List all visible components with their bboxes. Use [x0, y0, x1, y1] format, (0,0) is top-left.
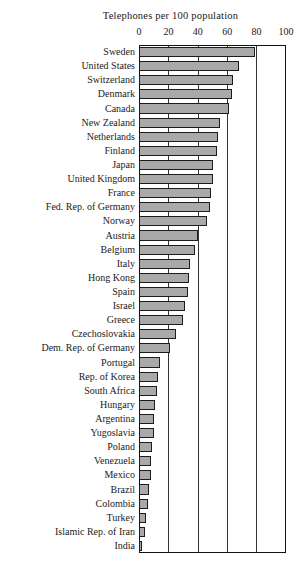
bar: [139, 329, 176, 339]
bar: [139, 343, 170, 353]
category-label: Hungary: [100, 400, 135, 410]
category-label: Japan: [112, 160, 135, 170]
category-label: Belgium: [101, 245, 135, 255]
bar: [139, 103, 229, 113]
bar: [139, 118, 220, 128]
telephones-bar-chart: Telephones per 100 population 0204060801…: [0, 0, 299, 576]
x-tick-label-60: 60: [222, 26, 232, 37]
category-labels: SwedenUnited StatesSwitzerlandDenmarkCan…: [0, 45, 135, 553]
bar: [139, 188, 211, 198]
bar: [139, 357, 160, 367]
category-label: Norway: [103, 216, 135, 226]
category-label: New Zealand: [81, 118, 135, 128]
x-tick-label-40: 40: [193, 26, 203, 37]
bar: [139, 202, 210, 212]
category-label: Italy: [117, 259, 135, 269]
category-label: Fed. Rep. of Germany: [46, 202, 135, 212]
x-tick-label-80: 80: [252, 26, 262, 37]
bar: [139, 470, 151, 480]
bar: [139, 484, 149, 494]
bars-layer: [139, 45, 286, 553]
category-label: France: [108, 188, 135, 198]
bar: [139, 442, 152, 452]
bar: [139, 527, 145, 537]
category-label: Mexico: [104, 470, 135, 480]
category-label: Czechoslovakia: [72, 329, 135, 339]
bar: [139, 61, 239, 71]
bar: [139, 315, 183, 325]
bar: [139, 414, 154, 424]
category-label: Finland: [104, 146, 135, 156]
category-label: Poland: [107, 442, 135, 452]
bar: [139, 513, 146, 523]
category-label: Israel: [113, 301, 135, 311]
bar: [139, 216, 207, 226]
bar: [139, 146, 217, 156]
category-label: Portugal: [101, 358, 135, 368]
category-label: Venezuela: [94, 456, 135, 466]
bar: [139, 386, 157, 396]
bar: [139, 259, 190, 269]
bar: [139, 132, 218, 142]
category-label: Hong Kong: [88, 273, 135, 283]
category-label: Dem. Rep. of Germany: [41, 343, 135, 353]
bar: [139, 428, 154, 438]
category-label: United Kingdom: [68, 174, 136, 184]
category-label: South Africa: [84, 386, 135, 396]
category-label: Austria: [106, 231, 135, 241]
bar: [139, 174, 213, 184]
category-label: Turkey: [106, 513, 135, 523]
bar: [139, 75, 233, 85]
bar: [139, 245, 195, 255]
category-label: Yugoslavia: [91, 428, 135, 438]
category-label: Islamic Rep. of Iran: [55, 527, 135, 537]
category-label: Greece: [107, 315, 135, 325]
category-label: Rep. of Korea: [79, 372, 135, 382]
category-label: Colombia: [96, 499, 135, 509]
bar: [139, 301, 185, 311]
category-label: Argentina: [95, 414, 135, 424]
category-label: Spain: [112, 287, 135, 297]
category-label: Canada: [105, 104, 135, 114]
bar: [139, 47, 255, 57]
category-label: Switzerland: [87, 75, 135, 85]
bar: [139, 287, 188, 297]
bar: [139, 273, 189, 283]
x-tick-label-0: 0: [137, 26, 142, 37]
x-axis-tick-labels: 020406080100: [139, 26, 286, 40]
x-tick-label-20: 20: [163, 26, 173, 37]
bar: [139, 160, 213, 170]
category-label: India: [114, 541, 135, 551]
bar: [139, 499, 148, 509]
bar: [139, 372, 158, 382]
x-tick-label-100: 100: [279, 26, 294, 37]
bar: [139, 400, 155, 410]
category-label: Brazil: [111, 485, 135, 495]
chart-title: Telephones per 100 population: [0, 10, 299, 21]
bar: [139, 541, 142, 551]
bar: [139, 456, 151, 466]
bar: [139, 230, 198, 240]
category-label: United States: [81, 61, 135, 71]
category-label: Netherlands: [87, 132, 135, 142]
category-label: Sweden: [103, 47, 135, 57]
bar: [139, 89, 232, 99]
category-label: Denmark: [98, 89, 135, 99]
